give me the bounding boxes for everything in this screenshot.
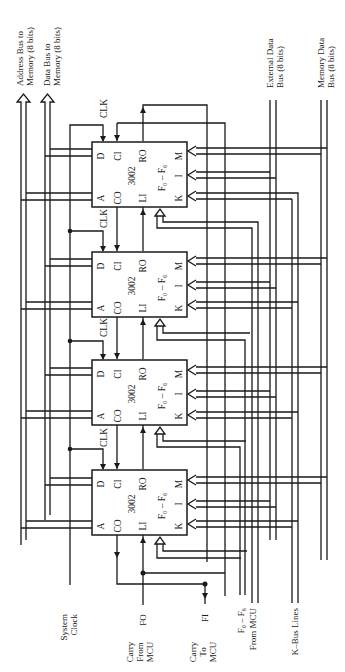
memory-data-bus-label-2: Bus (8 bits) — [326, 46, 336, 88]
external-data-bus-label-1: External Data — [265, 38, 275, 88]
k-bus-label: K–Bus Lines — [290, 608, 300, 656]
pin-d: D — [96, 370, 106, 377]
pin-i: I — [174, 392, 184, 395]
address-bus-label-2: Memory (8 bits) — [25, 27, 35, 86]
clk-label-4: CLK — [99, 428, 109, 447]
pin-k: K — [174, 522, 184, 529]
f-from-mcu-label-2: From MCU — [248, 608, 258, 651]
pin-m: M — [174, 261, 184, 270]
pin-m: M — [174, 369, 184, 378]
pin-ro: RO — [138, 149, 148, 162]
pin-ci: CI — [113, 479, 123, 489]
pin-i: I — [174, 502, 184, 505]
function-label: F₀ – F₆ — [157, 383, 167, 410]
pin-d: D — [96, 480, 106, 487]
memory-data-bus-label-1: Memory Data — [316, 38, 326, 88]
clk-label-3: CLK — [99, 318, 109, 337]
carry-from-mcu-label-1: Carry — [125, 641, 135, 662]
pin-ci: CI — [113, 151, 123, 161]
carry-to-mcu-label-1: Carry — [188, 641, 198, 662]
function-label: F₀ – F₆ — [157, 165, 167, 192]
function-label: F₀ – F₆ — [157, 493, 167, 520]
chip-name: 3002 — [127, 494, 137, 513]
pin-ro: RO — [138, 477, 148, 490]
carry-to-mcu-label-2: To — [198, 647, 208, 657]
pin-ro: RO — [138, 367, 148, 380]
cpe-block-4: D CI RO M 3002 F₀ – F₆ I A CO LI K — [92, 470, 187, 535]
pin-ro: RO — [138, 259, 148, 272]
pin-li: LI — [138, 304, 148, 313]
data-bus-label-2: Memory (8 bits) — [52, 27, 62, 86]
fo-pin-label: FO — [138, 614, 148, 626]
carry-to-mcu-label-3: MCU — [208, 641, 218, 662]
pin-a: A — [96, 412, 106, 419]
cpe-cascade-diagram: Address Bus to Memory (8 bits) Data Bus … — [0, 0, 345, 672]
memory-data-bus: Memory Data Bus (8 bits) — [316, 38, 336, 560]
pin-co: CO — [113, 519, 123, 532]
pin-co: CO — [113, 409, 123, 422]
data-bus-label-1: Data Bus to — [42, 43, 52, 86]
pin-d: D — [96, 262, 106, 269]
chip-name: 3002 — [127, 384, 137, 403]
pin-m: M — [174, 479, 184, 488]
system-clock-label-1: System — [59, 614, 69, 641]
pin-a: A — [96, 304, 106, 311]
cpe-block-2: D CI RO M 3002 F₀ – F₆ I A CO LI K — [92, 252, 187, 317]
pin-m: M — [174, 151, 184, 160]
cpe-block-1: D CI RO M 3002 F₀ – F₆ I A CO LI K — [92, 142, 187, 207]
carry-from-mcu-label-3: MCU — [145, 641, 155, 662]
pin-k: K — [174, 304, 184, 311]
pin-co: CO — [113, 301, 123, 314]
address-bus-output: Address Bus to Memory (8 bits) — [15, 27, 35, 545]
chip-name: 3002 — [127, 166, 137, 185]
pin-co: CO — [113, 191, 123, 204]
pin-ci: CI — [113, 369, 123, 379]
pin-li: LI — [138, 194, 148, 203]
system-clock-label-2: Clock — [69, 614, 79, 636]
pin-k: K — [174, 194, 184, 201]
carry-from-mcu-label-2: From — [135, 642, 145, 662]
chip-name: 3002 — [127, 276, 137, 295]
pin-a: A — [96, 194, 106, 201]
pin-d: D — [96, 152, 106, 159]
pin-li: LI — [138, 522, 148, 531]
external-data-bus: External Data Bus (8 bits) — [265, 38, 285, 540]
pin-ci: CI — [113, 261, 123, 271]
clk-label-2: CLK — [99, 209, 109, 228]
pin-li: LI — [138, 412, 148, 421]
address-bus-label-1: Address Bus to — [15, 30, 25, 86]
fi-pin-label: FI — [200, 614, 210, 622]
bottom-labels: System Clock FO Carry From MCU FI Carry … — [59, 608, 300, 663]
pin-k: K — [174, 412, 184, 419]
external-data-bus-label-2: Bus (8 bits) — [275, 46, 285, 88]
pin-i: I — [174, 174, 184, 177]
clk-label-1: CLK — [99, 99, 109, 118]
pin-a: A — [96, 522, 106, 529]
pin-i: I — [174, 284, 184, 287]
data-bus-output: Data Bus to Memory (8 bits) — [41, 27, 62, 520]
k-bus — [292, 199, 298, 603]
f-from-mcu-label-1: F₀ – F₆ — [236, 608, 246, 633]
function-label: F₀ – F₆ — [157, 275, 167, 302]
cpe-block-3: D CI RO M 3002 F₀ – F₆ I A CO LI K — [92, 360, 187, 425]
